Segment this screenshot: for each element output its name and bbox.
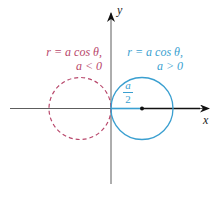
radius-label: a 2 [123, 80, 133, 105]
radius-label-numerator: a [123, 80, 133, 91]
x-axis-label: x [203, 113, 208, 127]
radius-label-denominator: 2 [123, 94, 133, 105]
left-curve-equation: r = a cos θ, [36, 45, 102, 59]
diagram-canvas [0, 0, 222, 197]
right-curve-condition: a > 0 [117, 59, 183, 73]
left-curve-condition: a < 0 [36, 59, 102, 73]
right-curve-equation: r = a cos θ, [117, 45, 183, 59]
center-dot [140, 107, 144, 111]
y-axis-label: y [117, 3, 122, 17]
